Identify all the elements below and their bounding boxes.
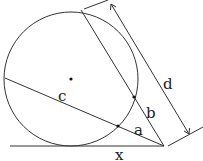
label-x: x xyxy=(115,146,124,161)
extension-line-top xyxy=(84,0,108,9)
center-point xyxy=(69,77,72,80)
intersection-point-b xyxy=(132,95,135,98)
secant-line-2 xyxy=(81,10,164,146)
label-b: b xyxy=(146,104,156,122)
label-d: d xyxy=(163,75,173,93)
intersection-point-a xyxy=(116,124,119,127)
secant-tangent-diagram: c a b d x xyxy=(0,0,203,161)
label-c: c xyxy=(58,87,66,105)
label-a: a xyxy=(134,121,143,139)
extension-line-bottom xyxy=(168,127,203,146)
